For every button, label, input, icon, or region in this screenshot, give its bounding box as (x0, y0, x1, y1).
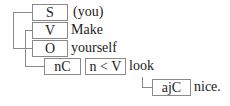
node-word-look: look (129, 59, 154, 73)
node-word-v: Make (71, 23, 103, 37)
node-box-n-lt-v: n < V (85, 58, 126, 75)
connector-o-horizontal (13, 48, 32, 49)
node-box-nc: nC (44, 58, 81, 75)
connector-v-nc-vertical (25, 30, 26, 67)
node-label: V (45, 23, 55, 38)
node-box-s: S (32, 4, 68, 21)
node-box-o: O (32, 40, 68, 57)
node-box-v: V (32, 22, 68, 39)
node-box-ajc: ajC (152, 79, 191, 96)
connector-s-o-vertical (13, 12, 14, 49)
node-word-o: yourself (71, 41, 117, 55)
connector-v-horizontal (25, 30, 32, 31)
node-label: O (45, 41, 55, 56)
connector-s-horizontal (13, 12, 32, 13)
node-label: S (46, 5, 54, 20)
node-label: ajC (162, 80, 181, 95)
connector-nc-horizontal (25, 66, 44, 67)
node-label: nC (54, 59, 70, 74)
node-label: n < V (90, 59, 122, 74)
node-word-nice: nice. (194, 80, 221, 94)
connector-ajc-horizontal (142, 87, 152, 88)
node-word-s: (you) (73, 5, 103, 19)
